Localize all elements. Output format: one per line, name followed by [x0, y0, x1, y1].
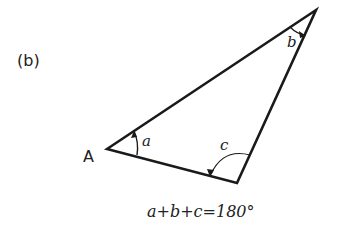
vertex-a-label: A: [83, 147, 94, 166]
triangle: [107, 10, 316, 183]
angle-b-label: b: [287, 33, 297, 51]
angle-a-label: a: [142, 132, 151, 150]
sum-equation: a+b+c=180°: [147, 202, 255, 221]
figure-label: (b): [17, 51, 40, 70]
angle-c-label: c: [220, 136, 229, 154]
triangle-diagram: (b) a b c A a+b+c=180°: [0, 0, 352, 232]
angle-c-arc: [211, 154, 250, 174]
